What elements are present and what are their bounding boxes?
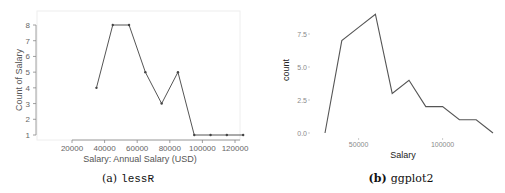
y-tick-label: 0.0	[297, 130, 307, 137]
x-tick-label: 120000	[222, 144, 249, 153]
plot-frame	[37, 11, 240, 140]
chart-lessr: 12345678 2000040000600008000010000012000…	[14, 11, 249, 185]
data-point	[242, 134, 244, 136]
y-tick-label: 3	[26, 100, 31, 109]
x-tick-label: 80000	[159, 144, 182, 153]
x-tick-label: 100000	[431, 141, 454, 148]
caption-a: (a)lessR	[102, 172, 155, 185]
y-tick-label: 6	[26, 52, 31, 61]
y-axis-ticks: 12345678	[26, 21, 36, 140]
data-point	[177, 71, 179, 73]
x-axis-ticks: 20000400006000080000100000120000	[61, 140, 249, 153]
data-point	[160, 102, 162, 104]
x-tick-label: 100000	[189, 144, 216, 153]
caption-name: lessR	[121, 173, 154, 185]
data-point	[112, 24, 114, 26]
data-point	[144, 71, 146, 73]
y-tick-label: 1	[26, 131, 31, 140]
x-axis-ticks: 50000100000	[349, 138, 455, 148]
figure: 12345678 2000040000600008000010000012000…	[0, 0, 505, 193]
caption-label: (b)	[369, 172, 387, 185]
y-axis-ticks: 0.02.55.07.5	[297, 31, 310, 137]
data-line	[325, 14, 493, 133]
y-tick-label: 7.5	[297, 31, 307, 38]
data-point	[95, 87, 97, 89]
caption-b: (b)ggplot2	[369, 172, 434, 185]
x-tick-label: 40000	[93, 144, 116, 153]
y-tick-label: 2.5	[297, 97, 307, 104]
x-tick-label: 50000	[349, 141, 369, 148]
y-axis-title: Count of Salary	[14, 48, 24, 111]
y-tick-label: 4	[26, 84, 31, 93]
data-point	[209, 134, 211, 136]
y-tick-label: 8	[26, 21, 31, 30]
data-point	[128, 24, 130, 26]
caption-name: ggplot2	[391, 172, 434, 185]
x-axis-title: Salary	[390, 150, 416, 160]
data-point	[226, 134, 228, 136]
y-tick-label: 5	[26, 68, 31, 77]
x-tick-label: 60000	[126, 144, 149, 153]
x-tick-label: 20000	[61, 144, 84, 153]
data-markers	[95, 24, 244, 136]
y-tick-label: 7	[26, 37, 31, 46]
data-point	[193, 134, 195, 136]
y-axis-title: count	[281, 58, 291, 81]
chart-ggplot2: 0.02.55.07.5 50000100000 count Salary (b…	[281, 14, 493, 185]
data-line	[96, 25, 243, 135]
y-tick-label: 5.0	[297, 64, 307, 71]
caption-label: (a)	[102, 172, 117, 185]
y-tick-label: 2	[26, 115, 31, 124]
x-axis-title: Salary: Annual Salary (USD)	[83, 154, 197, 164]
